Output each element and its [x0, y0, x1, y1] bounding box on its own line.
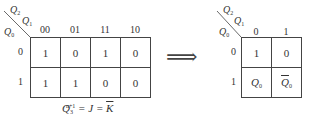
km-cell: 0 [121, 68, 151, 98]
right-var-q2: Q2 [223, 4, 233, 16]
right-var-q0: Q0 [219, 26, 229, 38]
right-karnaugh-map: 1 0 Q0 Q0 [241, 37, 302, 98]
left-row-header: 1 [18, 76, 23, 87]
km-cell: 1 [31, 68, 61, 98]
left-var-q0: Q0 [4, 26, 14, 38]
right-col-header: 1 [271, 26, 301, 37]
left-row-header: 0 [18, 46, 23, 57]
right-row-header: 1 [231, 76, 236, 87]
left-col-header: 10 [120, 24, 150, 35]
left-col-header: 00 [30, 24, 60, 35]
km-cell: 0 [121, 38, 151, 68]
right-row-header: 0 [231, 46, 236, 57]
km-cell-q0: Q0 [242, 68, 272, 98]
km-cell: 1 [31, 38, 61, 68]
km-cell: 1 [242, 38, 272, 68]
km-cell: 0 [91, 68, 121, 98]
left-karnaugh-map: 1 0 1 0 1 1 0 0 [30, 37, 151, 98]
km-cell: 0 [61, 38, 91, 68]
equation: Q3n+1 = J = K [62, 102, 113, 115]
left-var-q2: Q2 [10, 4, 20, 16]
left-col-header: 01 [60, 24, 90, 35]
left-col-header: 11 [90, 24, 120, 35]
km-cell: 1 [61, 68, 91, 98]
right-col-header: 0 [241, 26, 271, 37]
km-cell: 1 [91, 38, 121, 68]
km-cell: 0 [272, 38, 302, 68]
km-cell-q0-bar: Q0 [272, 68, 302, 98]
implies-arrow-icon: ⟹ [166, 44, 198, 70]
